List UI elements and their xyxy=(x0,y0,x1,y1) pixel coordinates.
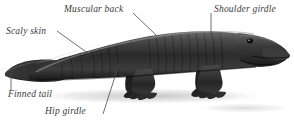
eye-highlight xyxy=(248,40,250,42)
leader-scaly-skin xyxy=(57,31,89,54)
eye xyxy=(247,39,253,44)
label-finned-tail: Finned tail xyxy=(8,89,52,100)
leader-muscular-back xyxy=(133,13,156,35)
hind-leg-near xyxy=(131,69,155,95)
label-hip-girdle: Hip girdle xyxy=(45,106,86,117)
label-muscular-back: Muscular back xyxy=(64,4,123,15)
anatomy-figure: Scaly skin Muscular back Shoulder girdle… xyxy=(0,0,294,120)
ground-shadow-right xyxy=(197,103,293,113)
label-shoulder-girdle: Shoulder girdle xyxy=(214,4,276,15)
tetrapod-illustration xyxy=(0,0,294,120)
label-scaly-skin: Scaly skin xyxy=(6,26,46,37)
